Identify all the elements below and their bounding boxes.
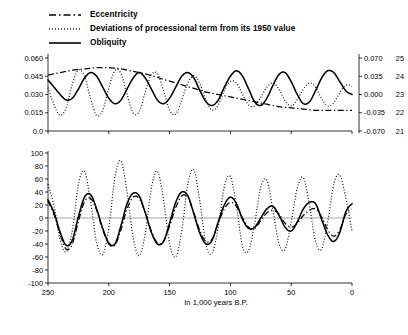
x-axis-title: In 1,000 years B.P.	[184, 298, 248, 307]
top-right-tick-label: 0.070	[364, 54, 383, 63]
top-far-right-tick-label: 22	[396, 108, 404, 117]
x-axis-tick-label: 0	[350, 288, 354, 297]
series-obliquity-bottom	[48, 192, 352, 246]
series-obliquity-top	[48, 70, 352, 105]
x-axis-tick-label: 250	[42, 288, 54, 297]
top-left-tick-label: 0.015	[25, 108, 44, 117]
top-right-tick-label: 0.035	[364, 72, 383, 81]
series-deviations-bottom	[48, 160, 352, 257]
bottom-left-tick-label: -60	[32, 253, 43, 262]
x-axis-tick-label: 200	[103, 288, 115, 297]
bottom-left-tick-label: 20	[35, 201, 43, 210]
top-far-right-tick-label: 23	[396, 90, 404, 99]
x-axis-tick-label: 50	[287, 288, 295, 297]
top-right-tick-label: -0.070	[364, 127, 385, 136]
bottom-left-tick-label: -40	[32, 240, 43, 249]
top-right-tick-label: 0.000	[364, 90, 383, 99]
top-left-tick-label: 0.0	[33, 127, 43, 136]
orbital-parameters-figure: Eccentricity Deviations of processional …	[0, 0, 408, 335]
top-left-tick-label: 0.045	[25, 72, 44, 81]
bottom-left-tick-label: 60	[35, 175, 43, 184]
bottom-left-tick-label: 100	[31, 149, 43, 158]
plot-canvas: 0.0600.0450.0300.0150.00.0700.0350.000-0…	[0, 0, 408, 335]
top-right-tick-label: -0.035	[364, 108, 385, 117]
top-far-right-tick-label: 25	[396, 54, 404, 63]
bottom-left-tick-label: 40	[35, 188, 43, 197]
top-left-tick-label: 0.060	[25, 54, 44, 63]
bottom-left-tick-label: 80	[35, 162, 43, 171]
top-far-right-tick-label: 21	[396, 127, 404, 136]
x-axis-tick-label: 100	[224, 288, 236, 297]
bottom-left-tick-label: 0	[39, 214, 43, 223]
bottom-left-tick-label: -20	[32, 227, 43, 236]
x-axis-tick-label: 150	[163, 288, 175, 297]
bottom-left-tick-label: -100	[28, 279, 43, 288]
top-far-right-tick-label: 24	[396, 72, 404, 81]
top-left-tick-label: 0.030	[25, 90, 44, 99]
bottom-left-tick-label: -80	[32, 266, 43, 275]
